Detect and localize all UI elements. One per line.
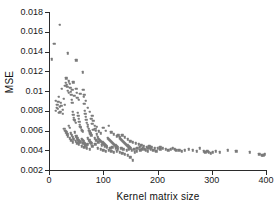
data-point bbox=[81, 130, 83, 132]
data-point bbox=[54, 110, 56, 112]
data-point bbox=[83, 96, 85, 98]
data-point bbox=[85, 100, 87, 102]
x-tick-label: 200 bbox=[150, 176, 165, 185]
data-point bbox=[107, 124, 109, 126]
data-point bbox=[122, 148, 124, 150]
data-point bbox=[70, 94, 72, 96]
x-tick-label: 300 bbox=[204, 176, 219, 185]
data-point bbox=[105, 129, 107, 131]
data-point bbox=[75, 92, 77, 94]
data-point bbox=[62, 113, 64, 115]
data-point bbox=[75, 88, 77, 90]
data-point bbox=[51, 58, 53, 60]
data-point bbox=[99, 132, 101, 134]
y-tick-label: 0.006 bbox=[20, 126, 43, 135]
data-point bbox=[88, 111, 90, 113]
data-point bbox=[81, 71, 83, 73]
data-point bbox=[215, 150, 217, 152]
data-point bbox=[78, 99, 80, 101]
data-point bbox=[61, 88, 63, 90]
x-tick-label: 0 bbox=[46, 176, 51, 185]
y-tick-label: 0.018 bbox=[20, 8, 43, 17]
data-point bbox=[75, 59, 77, 61]
data-point bbox=[132, 159, 134, 161]
data-point bbox=[68, 83, 70, 85]
y-tick-label: 0.014 bbox=[20, 47, 43, 56]
data-point bbox=[82, 89, 84, 91]
data-point bbox=[74, 121, 76, 123]
x-tick-label: 400 bbox=[258, 176, 273, 185]
data-point bbox=[136, 150, 138, 152]
data-point bbox=[188, 148, 190, 150]
data-point bbox=[67, 52, 69, 54]
x-axis-label: Kernel matrix size bbox=[49, 192, 267, 202]
data-point bbox=[212, 151, 214, 153]
data-point bbox=[58, 96, 60, 98]
data-point bbox=[183, 149, 185, 151]
plot-data-area bbox=[49, 12, 266, 170]
data-point bbox=[94, 129, 96, 131]
data-point bbox=[83, 103, 85, 105]
y-tick-label: 0.004 bbox=[20, 146, 43, 155]
data-point bbox=[219, 151, 221, 153]
y-tick-label: 0.002 bbox=[20, 166, 43, 175]
data-point bbox=[72, 81, 74, 83]
data-point bbox=[61, 109, 63, 111]
y-tick-label: 0.016 bbox=[20, 27, 43, 36]
data-point bbox=[235, 150, 237, 152]
data-point bbox=[88, 148, 90, 150]
scatter-plot-figure: 0.0020.0040.0060.0080.010.0120.0140.0160… bbox=[0, 0, 275, 216]
data-point bbox=[192, 149, 194, 151]
y-tick-label: 0.012 bbox=[20, 67, 43, 76]
data-point bbox=[64, 104, 66, 106]
data-point bbox=[152, 149, 154, 151]
data-point bbox=[53, 42, 55, 44]
y-tick-label: 0.01 bbox=[25, 87, 43, 96]
data-point bbox=[68, 126, 70, 128]
data-point bbox=[71, 89, 73, 91]
y-axis-label: MSE bbox=[5, 52, 15, 112]
data-point bbox=[59, 24, 61, 26]
y-tick-label: 0.008 bbox=[20, 106, 43, 115]
data-point bbox=[199, 147, 201, 149]
data-point bbox=[195, 150, 197, 152]
data-point bbox=[94, 143, 96, 145]
data-point bbox=[90, 134, 92, 136]
data-point bbox=[79, 93, 81, 95]
data-point bbox=[155, 150, 157, 152]
data-point bbox=[147, 150, 149, 152]
data-point bbox=[74, 131, 76, 133]
data-point bbox=[227, 149, 229, 151]
data-point bbox=[71, 102, 73, 104]
data-point bbox=[249, 151, 251, 153]
data-point bbox=[87, 107, 89, 109]
data-point bbox=[62, 98, 64, 100]
data-point bbox=[111, 146, 113, 148]
data-point bbox=[91, 145, 93, 147]
x-tick-label: 100 bbox=[96, 176, 111, 185]
